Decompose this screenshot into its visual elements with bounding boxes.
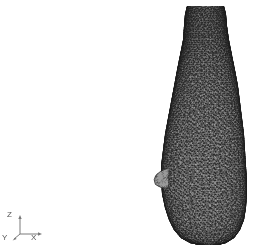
axis-label-z: Z xyxy=(7,211,12,219)
axis-label-y: Y xyxy=(2,234,7,242)
mesh-viewport: Z Y X xyxy=(0,0,259,251)
axis-label-x: X xyxy=(31,234,36,242)
coordinate-axis-triad: Z Y X xyxy=(0,203,56,251)
